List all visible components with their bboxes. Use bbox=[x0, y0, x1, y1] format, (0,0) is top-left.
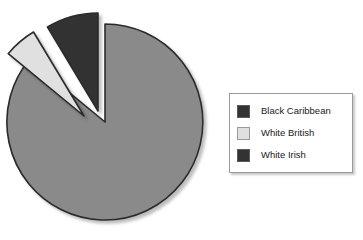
legend-label-black-caribbean: Black Caribbean bbox=[261, 106, 331, 116]
chart-legend: Black Caribbean White British White Iris… bbox=[229, 93, 353, 173]
legend-item-white-irish: White Irish bbox=[230, 144, 352, 166]
pie-chart bbox=[0, 0, 226, 240]
pie-chart-screenshot: Black Caribbean White British White Iris… bbox=[0, 0, 363, 240]
legend-swatch-white-british bbox=[237, 127, 250, 140]
legend-swatch-white-irish bbox=[237, 149, 250, 162]
legend-label-white-british: White British bbox=[261, 128, 314, 138]
legend-item-black-caribbean: Black Caribbean bbox=[230, 100, 352, 122]
legend-label-white-irish: White Irish bbox=[261, 150, 306, 160]
legend-item-white-british: White British bbox=[230, 122, 352, 144]
legend-swatch-black-caribbean bbox=[237, 105, 250, 118]
pie-chart-svg bbox=[0, 0, 226, 240]
